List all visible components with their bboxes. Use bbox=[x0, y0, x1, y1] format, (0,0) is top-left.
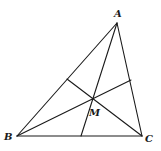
segments-group bbox=[17, 23, 142, 136]
cevian-a bbox=[81, 23, 117, 136]
vertex-label-c: C bbox=[145, 133, 153, 144]
cevian-b bbox=[17, 80, 131, 136]
intersection-label-m: M bbox=[88, 107, 101, 118]
diagram-svg: A B C M bbox=[0, 0, 161, 151]
triangle-diagram: A B C M bbox=[0, 0, 161, 151]
side-ca bbox=[117, 23, 142, 136]
vertex-label-a: A bbox=[113, 8, 122, 19]
vertex-label-b: B bbox=[3, 131, 12, 142]
labels-group: A B C M bbox=[3, 8, 153, 144]
